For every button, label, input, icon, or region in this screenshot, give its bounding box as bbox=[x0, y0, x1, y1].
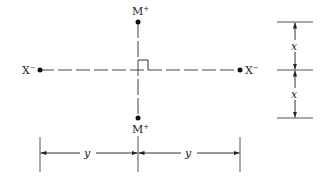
dimension-label-x-bottom: x bbox=[291, 88, 298, 101]
dimension-label-y-left: y bbox=[83, 147, 91, 160]
charge-label-bottom: M+ bbox=[132, 123, 149, 136]
charge-dot-right bbox=[238, 68, 243, 73]
charge-label-left: X− bbox=[22, 64, 36, 77]
vertical-dimension: x x bbox=[277, 22, 313, 118]
horizontal-dimension: y y bbox=[40, 136, 240, 172]
dimension-label-y-right: y bbox=[184, 147, 192, 160]
right-angle-marker bbox=[138, 60, 148, 70]
charge-dot-top bbox=[136, 20, 141, 25]
charge-label-right: X− bbox=[245, 64, 259, 77]
ionic-lattice-diagram: M+ M+ X− X− x x y y bbox=[0, 0, 329, 177]
charge-dot-left bbox=[38, 68, 43, 73]
charge-label-top: M+ bbox=[132, 5, 149, 18]
charge-dot-bottom bbox=[136, 116, 141, 121]
dimension-label-x-top: x bbox=[291, 40, 298, 53]
